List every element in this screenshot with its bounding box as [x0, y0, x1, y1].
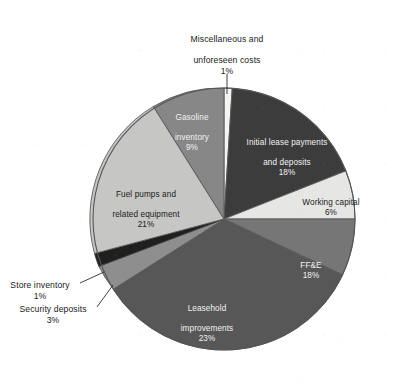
leader-line-store-inventory [80, 272, 104, 283]
pie-chart-svg [0, 0, 396, 387]
pie-chart: Initial lease payments and deposits 18% … [0, 0, 396, 387]
leader-line-security-deposits [97, 285, 113, 307]
pie-slices [90, 88, 355, 350]
